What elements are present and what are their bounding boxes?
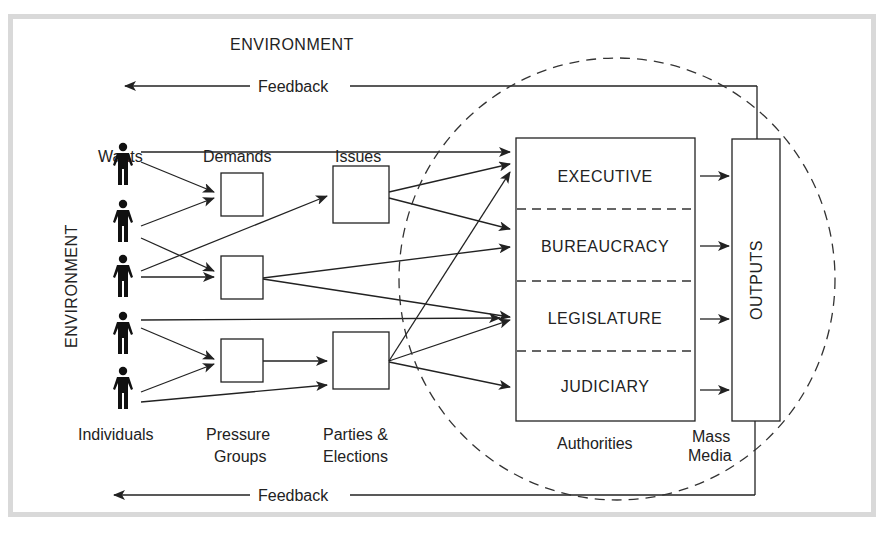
footer-mass-media-2: Media [688, 447, 732, 464]
footer-parties-2: Elections [323, 448, 388, 465]
header-issues: Issues [335, 148, 381, 165]
issue-box [333, 166, 389, 223]
authority-executive: EXECUTIVE [557, 168, 652, 185]
environment-left-label: ENVIRONMENT [63, 224, 80, 348]
footer-parties-1: Parties & [323, 426, 388, 443]
demand-box [221, 173, 263, 216]
political-system-diagram: ENVIRONMENT Feedback Feedback ENVIRONMEN… [0, 0, 890, 535]
footer-mass-media-1: Mass [692, 428, 730, 445]
environment-top-label: ENVIRONMENT [230, 36, 354, 53]
authority-legislature: LEGISLATURE [548, 310, 663, 327]
footer-authorities: Authorities [557, 435, 633, 452]
footer-pressure-2: Groups [214, 448, 266, 465]
outputs-label: OUTPUTS [748, 240, 765, 320]
issue-box [333, 332, 389, 389]
demand-box [221, 256, 263, 299]
authority-judiciary: JUDICIARY [561, 378, 650, 395]
authorities-dividers [517, 209, 694, 351]
person-icon [113, 312, 133, 354]
output-arrows [700, 176, 729, 390]
flow-arrows [141, 152, 510, 402]
demand-box [221, 339, 263, 382]
person-icon [113, 200, 133, 242]
header-demands: Demands [203, 148, 271, 165]
feedback-top-label: Feedback [258, 78, 329, 95]
person-icon [113, 367, 133, 409]
footer-individuals: Individuals [78, 426, 154, 443]
feedback-top-arrow [125, 86, 757, 139]
authority-bureaucracy: BUREAUCRACY [541, 238, 669, 255]
person-icon [113, 255, 133, 297]
footer-pressure-1: Pressure [206, 426, 270, 443]
feedback-bottom-label: Feedback [258, 487, 329, 504]
